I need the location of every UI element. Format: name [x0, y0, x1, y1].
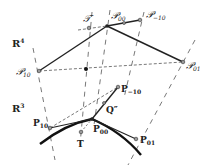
fiber-line-p10 — [33, 48, 55, 160]
curve-lower — [40, 119, 141, 155]
point-chord-mid-upper — [84, 67, 88, 71]
point-p01-upper — [181, 60, 185, 64]
point-pm10 — [116, 85, 120, 89]
label-p10-upper: 𝒫10 — [16, 66, 31, 78]
fiber-line-t — [80, 12, 92, 145]
label-pm10: P−10 — [121, 84, 141, 95]
edge-p00-p01-upper — [107, 26, 183, 62]
label-p01: P01 — [140, 135, 155, 146]
point-p00 — [90, 117, 94, 121]
point-p00-upper — [105, 24, 109, 28]
label-p10: P10 — [33, 118, 48, 129]
lower-r3-structure — [40, 85, 141, 155]
fiber-line-p01 — [128, 40, 195, 165]
diagram-figure: R4 R3 𝒫00 𝒫−10 𝒯 𝒫10 𝒫01 P−10 Q″ P10 P00… — [0, 0, 211, 165]
label-r4: R4 — [12, 37, 25, 49]
point-t-upper — [87, 26, 91, 30]
point-p01 — [134, 137, 138, 141]
label-qpp: Q″ — [106, 105, 118, 115]
point-p10-upper — [37, 69, 41, 73]
point-pm10-upper — [138, 18, 142, 22]
fiber-lines — [33, 10, 195, 165]
chord-p10-p01-upper — [39, 62, 183, 71]
label-t: T — [77, 139, 84, 149]
upper-r4-structure — [37, 18, 185, 73]
label-r3: R3 — [12, 102, 25, 114]
label-pm10-upper: 𝒫−10 — [146, 9, 166, 21]
diagram-canvas: R4 R3 𝒫00 𝒫−10 𝒯 𝒫10 𝒫01 P−10 Q″ P10 P00… — [0, 0, 211, 165]
label-t-upper: 𝒯 — [83, 13, 94, 24]
label-p01-upper: 𝒫01 — [186, 60, 201, 72]
point-t — [79, 130, 83, 134]
label-p00-upper: 𝒫00 — [111, 10, 126, 22]
point-p10 — [48, 126, 52, 130]
edge-p10-p00-upper — [39, 26, 107, 71]
